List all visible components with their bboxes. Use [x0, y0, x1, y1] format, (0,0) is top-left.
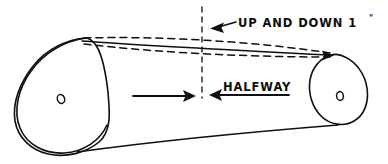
small-pulley-hub	[336, 91, 344, 101]
halfway-label: HALFWAY	[223, 80, 291, 94]
large-pulley	[14, 38, 109, 155]
large-pulley-outline-inner-sweep	[17, 38, 107, 153]
small-pulley-outline	[309, 54, 367, 124]
belt-deflection-diagram: UP AND DOWN 1 " HALFWAY	[0, 0, 388, 164]
deflection-leader-arrowhead	[210, 23, 224, 34]
deflection-leader-line	[222, 22, 236, 26]
belt-deflection-lower-limit	[84, 44, 330, 57]
belt-deflection-upper-limit	[84, 38, 330, 53]
small-pulley	[309, 54, 367, 124]
large-pulley-hub	[56, 94, 66, 105]
large-pulley-outline	[14, 38, 109, 155]
deflection-label: UP AND DOWN 1	[238, 16, 357, 30]
deflection-unit-label: "	[369, 14, 374, 23]
belt-drive-drawing: UP AND DOWN 1 " HALFWAY	[0, 0, 388, 164]
belt-bottom-span	[77, 125, 338, 152]
